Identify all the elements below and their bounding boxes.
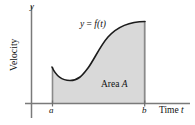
x-tick-label-a: a [49,106,54,115]
area-fill-region [52,22,145,104]
curve-equation-rhs: f(t) [94,19,106,29]
x-tick-label-b: b [142,106,147,115]
velocity-time-area-figure: y Velocity y = f(t) Area A a b Time t [0,0,195,125]
area-annotation-text: Area [101,79,119,89]
x-axis-title-text: Time [159,105,179,115]
y-axis-title: Velocity [10,27,20,83]
y-axis-symbol-label: y [30,2,34,11]
area-annotation: Area A [101,80,128,90]
area-annotation-var: A [122,79,128,89]
x-axis-title-var: t [181,105,184,115]
x-axis-title: Time t [159,106,184,116]
curve-equation-equals: = [84,19,94,29]
curve-equation-label: y = f(t) [80,20,106,30]
